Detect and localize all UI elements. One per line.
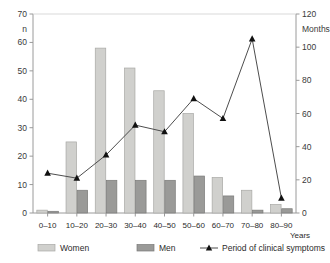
y-axis-tick-label: 0 [22,208,27,218]
y2-axis-tick-label: 40 [302,142,312,152]
legend-swatch-icon [38,245,55,252]
line-marker-triangle-icon [44,170,51,176]
x-axis-category-label: 80–90 [270,221,293,230]
bar-men [48,211,59,213]
chart-container: 010203040506070n020406080100120Months0–1… [0,0,330,263]
bar-women [183,114,194,214]
bar-men [165,180,176,213]
y2-axis-tick-label: 0 [302,208,307,218]
y2-axis-tick-label: 20 [302,175,312,185]
y-axis-tick-label: 10 [18,180,28,190]
x-axis-category-label: 20–30 [95,221,118,230]
y2-axis-tick-label: 100 [302,42,316,52]
bar-men [136,180,147,213]
bar-men [282,209,293,213]
y-axis-tick-label: 60 [18,37,28,47]
bar-men [194,176,205,213]
legend-item-label: Period of clinical symptoms [222,243,325,253]
y2-axis-tick-label: 80 [302,75,312,85]
bar-men [252,210,263,213]
legend-swatch-icon [137,245,154,252]
line-marker-triangle-icon [249,35,256,41]
line-marker-triangle-icon [220,115,227,121]
x-axis-label: Years [290,231,310,240]
x-axis-category-label: 40–50 [153,221,176,230]
x-axis-category-label: 70–80 [241,221,264,230]
y-axis-tick-label: 70 [18,9,28,19]
y-axis-tick-label: 20 [18,151,28,161]
bar-women [37,210,48,213]
bar-women [124,68,135,213]
legend-item-label: Men [159,243,176,253]
bar-women [241,190,252,213]
bar-men [77,190,88,213]
y-axis-tick-label: 50 [18,66,28,76]
y-axis-tick-label: 40 [18,94,28,104]
x-axis-category-label: 10–20 [66,221,89,230]
y-axis-label: n [22,24,27,34]
y2-axis-label: Months [302,24,330,34]
legend-item-label: Women [60,243,89,253]
x-axis-category-label: 50–60 [183,221,206,230]
bar-men [223,196,234,213]
y-axis-tick-label: 30 [18,123,28,133]
y2-axis-tick-label: 120 [302,9,316,19]
bar-women [95,48,106,213]
y2-axis-tick-label: 60 [302,109,312,119]
bar-line-combo-chart: 010203040506070n020406080100120Months0–1… [0,0,330,263]
line-marker-triangle-icon [190,95,197,101]
line-marker-triangle-icon [278,194,285,200]
x-axis-category-label: 60–70 [212,221,235,230]
x-axis-category-label: 30–40 [124,221,147,230]
bar-women [154,91,165,213]
bar-men [106,180,117,213]
x-axis-category-label: 0–10 [39,221,57,230]
bar-women [271,204,282,213]
bar-women [212,177,223,213]
